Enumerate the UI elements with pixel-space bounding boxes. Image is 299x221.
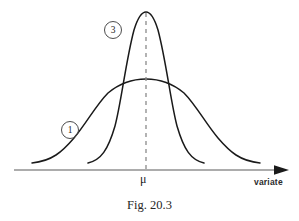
figure-container: 1 3 μ variate Fig. 20.3 (0, 0, 299, 221)
curve-callout-1-label: 1 (68, 125, 73, 135)
figure-caption: Fig. 20.3 (0, 199, 299, 212)
axis-arrowhead-icon (274, 165, 289, 175)
distribution-plot (0, 0, 299, 221)
mean-axis-tick-label: μ (140, 173, 146, 185)
curve-callout-1: 1 (61, 121, 79, 139)
curve-callout-3: 3 (104, 21, 122, 39)
curve-callout-3-label: 3 (111, 25, 116, 35)
x-axis-label: variate (254, 178, 283, 187)
